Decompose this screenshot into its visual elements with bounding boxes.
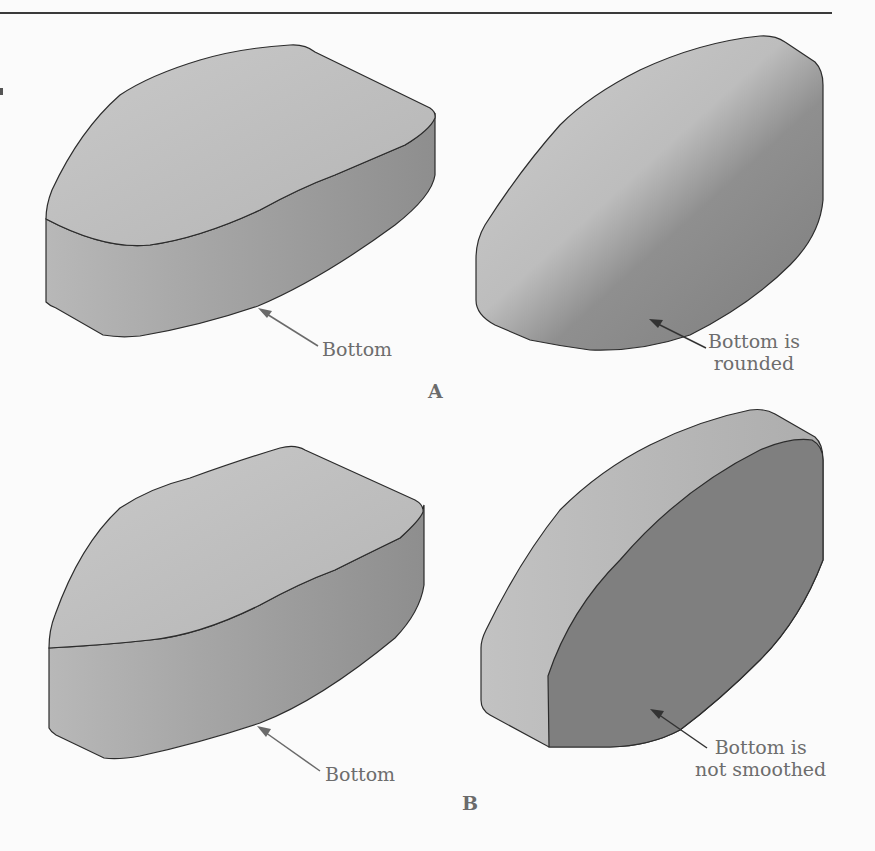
callout-a-right-line1: Bottom is [708, 330, 800, 352]
shape-b-left [49, 446, 424, 771]
panel-label-a: A [428, 380, 443, 402]
shape-a-right [476, 36, 823, 350]
figure-illustration [0, 0, 875, 851]
callout-b-right-line2: not smoothed [695, 758, 826, 780]
shape-a-left [46, 45, 435, 346]
callout-b-right-line1: Bottom is [695, 736, 826, 758]
panel-label-b: B [462, 792, 478, 814]
callout-a-right: Bottom is rounded [708, 330, 800, 374]
callout-b-right: Bottom is not smoothed [695, 736, 826, 780]
shape-b-right [481, 410, 823, 749]
callout-a-left: Bottom [322, 338, 392, 360]
callout-a-right-line2: rounded [708, 352, 800, 374]
mesh-smoothing-figure: Bottom Bottom is rounded A Bottom Bottom… [0, 0, 875, 851]
callout-b-left: Bottom [325, 763, 395, 785]
